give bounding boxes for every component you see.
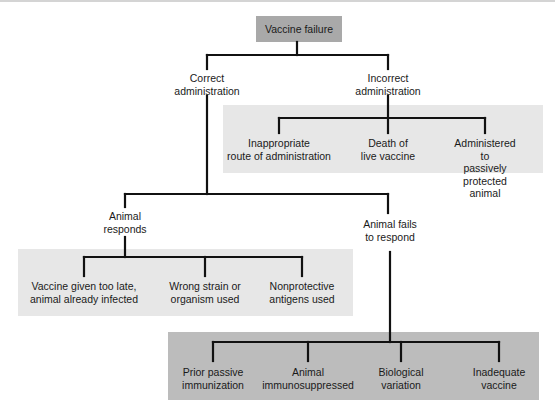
incorrect-administration-label: Incorrect administration (355, 72, 420, 97)
cause-biological-variation: Biological variation (379, 366, 424, 391)
cause-nonprotective-antigens: Nonprotective antigens used (269, 280, 334, 305)
connector-lines (0, 0, 555, 413)
cause-inadequate-vaccine: Inadequate vaccine (473, 366, 526, 391)
cause-immunosuppressed: Animal immunosuppressed (262, 366, 354, 391)
animal-fails-label: Animal fails to respond (363, 218, 417, 243)
cause-prior-passive-immunization: Prior passive immunization (182, 366, 244, 391)
root-node-label: Vaccine failure (256, 16, 342, 42)
animal-responds-label: Animal responds (103, 210, 146, 235)
cause-given-too-late: Vaccine given too late, animal already i… (30, 280, 138, 305)
cause-wrong-strain: Wrong strain or organism used (169, 280, 241, 305)
cause-inappropriate-route: Inappropriate route of administration (227, 137, 331, 162)
correct-administration-label: Correct administration (174, 72, 239, 97)
cause-passively-protected: Administered to passively protected anim… (450, 137, 520, 200)
cause-death-of-live-vaccine: Death of live vaccine (361, 137, 415, 162)
